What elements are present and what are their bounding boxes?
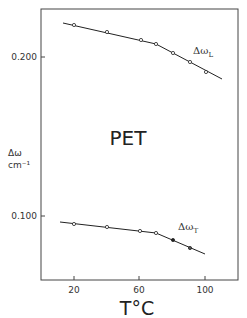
series-T-markers <box>72 222 191 249</box>
x-axis-label: T°C <box>119 297 154 318</box>
data-point <box>154 42 157 45</box>
data-point <box>171 238 174 241</box>
data-point <box>154 231 157 234</box>
data-point <box>204 70 207 73</box>
chart-canvas: 0.200 0.100 20 60 100 T°C Δω cm⁻¹ PET Δω… <box>0 0 247 318</box>
data-point <box>171 51 174 54</box>
y-tick-label-0100: 0.100 <box>11 211 37 221</box>
y-tick-label-0200: 0.200 <box>11 52 37 62</box>
y-axis-label: Δω <box>8 148 22 158</box>
data-point <box>105 225 108 228</box>
data-point <box>138 229 141 232</box>
data-point <box>72 222 75 225</box>
y-axis-unit: cm⁻¹ <box>8 160 30 170</box>
data-point <box>139 38 142 41</box>
data-point <box>188 60 191 63</box>
chart-inner-title: PET <box>110 126 148 150</box>
x-tick-label-60: 60 <box>133 285 145 295</box>
series-L-label: ΔωL <box>193 45 213 59</box>
data-point <box>72 23 75 26</box>
series-T-label: ΔωT <box>178 221 198 235</box>
series-L-markers <box>72 23 207 73</box>
x-tick-label-20: 20 <box>68 285 80 295</box>
x-tick-label-100: 100 <box>196 285 213 295</box>
data-point <box>188 246 191 249</box>
data-point <box>105 30 108 33</box>
